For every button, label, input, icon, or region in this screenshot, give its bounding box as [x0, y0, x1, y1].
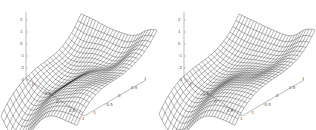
z-tick-label: 1	[20, 29, 23, 34]
z-tick-label: 0	[178, 41, 181, 46]
y-tick-label: -1	[92, 110, 96, 115]
z-tick-label: 0	[20, 41, 23, 46]
z-tick-label: 1	[178, 29, 181, 34]
y-tick-label: -0.5	[105, 102, 113, 107]
y-tick-label: 0	[276, 93, 279, 98]
y-tick-label: 0.5	[289, 85, 296, 90]
z-tick-label: -2	[20, 65, 24, 70]
z-tick-label: -3	[20, 77, 24, 82]
surface-plot-left-canvas: 210-1-2-3-1-0.500.51-1-0.500.51	[0, 0, 158, 130]
z-tick-label: -1	[178, 53, 182, 58]
surface-plot-right-canvas: 210-1-2-3-1-0.500.51-1-0.500.51	[158, 0, 316, 130]
y-tick-label: -1	[250, 110, 254, 115]
y-tick-label: -0.5	[263, 102, 271, 107]
y-tick-label: 0	[118, 93, 121, 98]
z-tick-label: 2	[178, 17, 181, 22]
y-tick-label: 0.5	[131, 85, 138, 90]
z-tick-label: -2	[178, 65, 182, 70]
z-tick-label: 2	[20, 17, 23, 22]
surface-plot-left: 210-1-2-3-1-0.500.51-1-0.500.51	[0, 0, 158, 130]
x-tick-label: 1	[82, 116, 85, 121]
surface-plot-right: 210-1-2-3-1-0.500.51-1-0.500.51	[158, 0, 316, 130]
y-tick-label: 1	[302, 76, 305, 81]
figure: 210-1-2-3-1-0.500.51-1-0.500.51 210-1-2-…	[0, 0, 316, 130]
z-tick-label: -1	[20, 53, 24, 58]
x-tick-label: 1	[240, 116, 243, 121]
y-tick-label: 1	[144, 76, 147, 81]
